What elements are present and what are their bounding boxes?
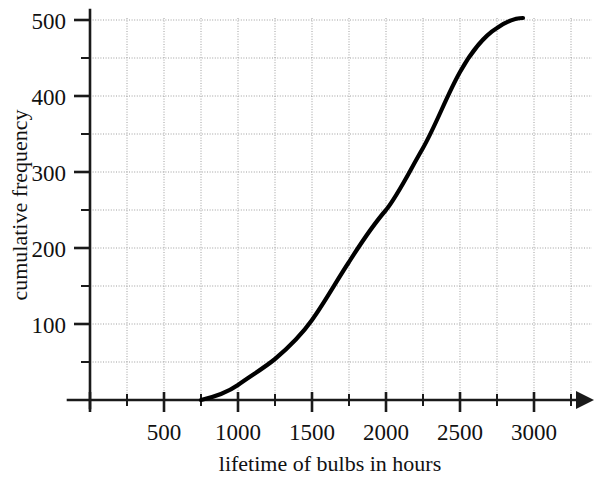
x-tick-label: 1500 xyxy=(289,420,335,445)
x-axis-major-ticks xyxy=(90,392,534,412)
x-tick-label: 500 xyxy=(147,420,182,445)
cumulative-frequency-chart: 500 400 300 200 100 500 1000 1500 2000 2… xyxy=(0,0,599,486)
y-tick-label: 400 xyxy=(32,85,67,110)
cumulative-frequency-curve xyxy=(201,18,523,400)
x-tick-label: 2000 xyxy=(363,420,409,445)
y-axis-minor-ticks xyxy=(81,58,90,362)
horizontal-gridlines xyxy=(90,20,592,362)
x-tick-label: 1000 xyxy=(215,420,261,445)
y-tick-label: 300 xyxy=(32,161,67,186)
y-tick-label: 100 xyxy=(32,313,67,338)
y-axis-title: cumulative frequency xyxy=(7,109,32,300)
y-tick-label: 200 xyxy=(32,237,67,262)
x-tick-label: 3000 xyxy=(511,420,557,445)
vertical-gridlines xyxy=(127,18,571,400)
y-axis-major-ticks xyxy=(74,20,90,324)
x-axis-title: lifetime of bulbs in hours xyxy=(219,451,441,476)
y-axis-tick-labels: 500 400 300 200 100 xyxy=(32,9,67,338)
x-tick-label: 2500 xyxy=(437,420,483,445)
chart-plot-area: 500 400 300 200 100 500 1000 1500 2000 2… xyxy=(0,0,599,486)
x-axis-arrow-icon xyxy=(576,391,594,409)
x-axis-tick-labels: 500 1000 1500 2000 2500 3000 xyxy=(147,420,557,445)
y-tick-label: 500 xyxy=(32,9,67,34)
